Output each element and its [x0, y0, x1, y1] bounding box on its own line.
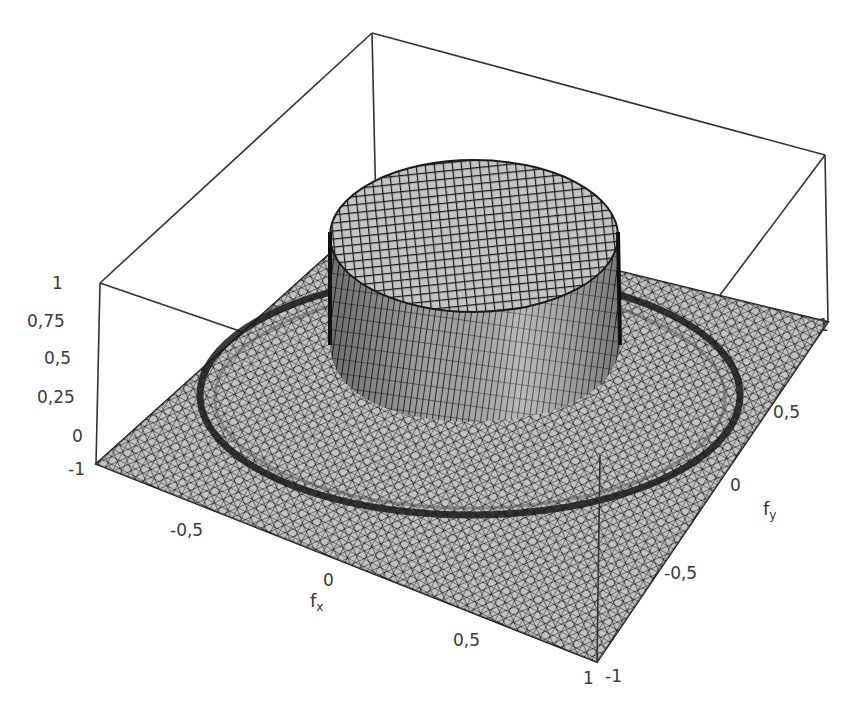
y-axis-title: fy	[763, 498, 776, 522]
z-tick-label: 1	[52, 273, 63, 293]
x-tick-label: 0,5	[453, 630, 480, 650]
y-tick-label: -0,5	[664, 563, 697, 583]
surface-plateau	[330, 160, 620, 422]
x-tick-label: -0,5	[170, 520, 203, 540]
z-tick-label: -1	[68, 459, 85, 479]
z-tick-label: 0	[72, 426, 83, 446]
z-tick-label: 0,75	[27, 311, 65, 331]
surface-plot	[0, 0, 848, 718]
y-tick-label: 0	[730, 475, 741, 495]
y-tick-label: 0,5	[773, 402, 800, 422]
x-axis-title-sub: x	[316, 600, 323, 614]
z-tick-label: 0,25	[37, 387, 75, 407]
y-tick-label: 1	[818, 315, 829, 335]
x-axis-title: fx	[310, 590, 323, 614]
x-tick-label: 0	[323, 570, 334, 590]
y-tick-label: -1	[605, 666, 622, 686]
z-tick-label: 0,5	[44, 348, 71, 368]
x-tick-label: 1	[583, 668, 594, 688]
y-axis-title-sub: y	[769, 508, 776, 522]
